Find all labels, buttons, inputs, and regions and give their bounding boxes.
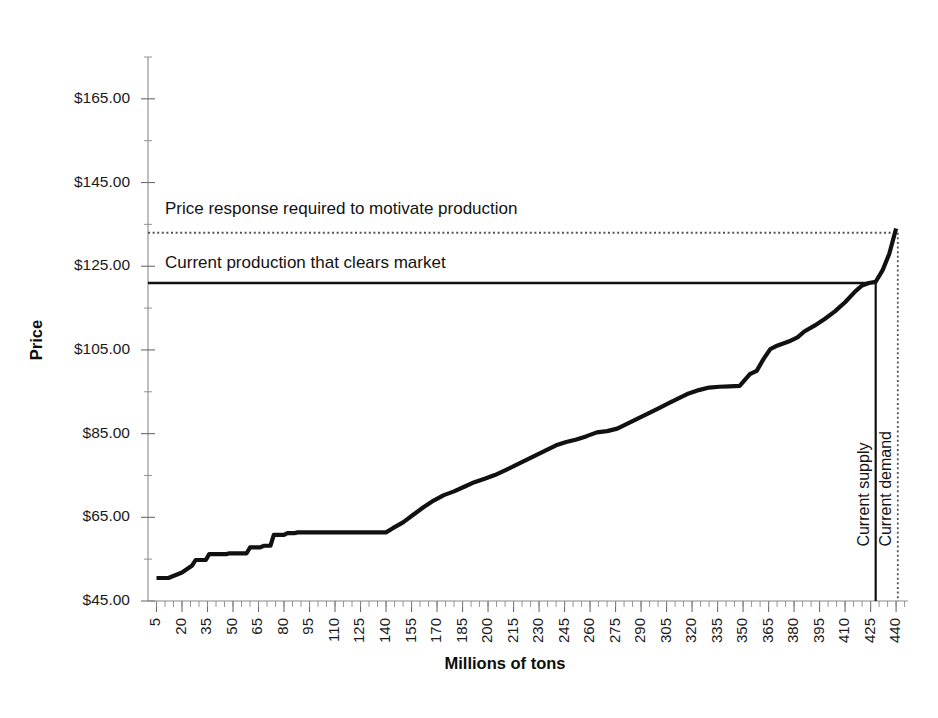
supply-curve-chart: $45.00$65.00$85.00$105.00$125.00$145.00$… [0,0,938,718]
annotation-label-3: Current supply [855,443,872,547]
x-tick-label: 155 [402,618,419,643]
y-axis: $45.00$65.00$85.00$105.00$125.00$145.00$… [74,57,155,608]
x-tick-label: 245 [555,618,572,643]
x-tick-label: 200 [478,618,495,643]
x-tick-label: 50 [223,618,240,635]
x-tick-label: 335 [708,618,725,643]
x-tick-label: 290 [631,618,648,643]
x-tick-label: 20 [172,618,189,635]
x-tick-label: 260 [580,618,597,643]
x-tick-label: 140 [376,618,393,643]
x-tick-label: 80 [274,618,291,635]
annotation-label-2: Current production that clears market [165,253,446,272]
x-tick-label: 440 [886,618,903,643]
x-axis-title: Millions of tons [445,654,566,672]
x-tick-label: 275 [606,618,623,643]
x-axis: 5203550658095110125140155170185200215230… [146,601,908,643]
annotation-label-1: Price response required to motivate prod… [165,199,517,218]
supply-cost-curve [157,229,897,578]
x-tick-label: 305 [657,618,674,643]
y-tick-label: $85.00 [83,424,131,441]
y-tick-label: $45.00 [83,591,131,608]
x-tick-label: 425 [861,618,878,643]
x-tick-label: 380 [784,618,801,643]
annotation-label-4: Current demand [877,431,894,547]
y-tick-label: $105.00 [74,340,130,357]
x-tick-label: 95 [299,618,316,635]
x-tick-label: 65 [248,618,265,635]
y-tick-label: $125.00 [74,256,130,273]
x-axis-ticks: 5203550658095110125140155170185200215230… [146,601,904,643]
y-tick-label: $145.00 [74,173,130,190]
x-tick-label: 410 [835,618,852,643]
y-axis-ticks: $45.00$65.00$85.00$105.00$125.00$145.00$… [74,89,155,608]
x-tick-label: 365 [759,618,776,643]
x-tick-label: 350 [733,618,750,643]
x-tick-label: 320 [682,618,699,643]
x-tick-label: 35 [197,618,214,635]
x-tick-label: 5 [146,618,163,626]
x-tick-label: 230 [529,618,546,643]
x-tick-label: 215 [504,618,521,643]
y-tick-label: $165.00 [74,89,130,106]
x-tick-label: 170 [427,618,444,643]
x-tick-label: 395 [810,618,827,643]
x-tick-label: 185 [453,618,470,643]
x-tick-label: 110 [325,618,342,642]
chart-canvas: $45.00$65.00$85.00$105.00$125.00$145.00$… [0,0,938,718]
x-tick-label: 125 [350,618,367,643]
y-tick-label: $65.00 [83,507,131,524]
y-axis-title: Price [27,320,45,360]
chart-annotations: Price response required to motivate prod… [165,199,894,547]
